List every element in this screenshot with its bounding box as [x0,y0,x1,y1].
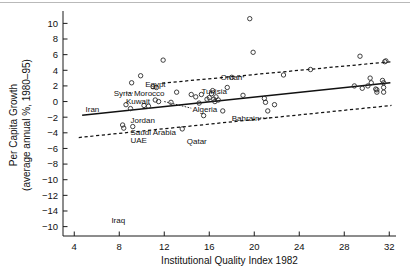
data-point [281,73,285,77]
country-label: Algeria [192,105,217,114]
x-tick-label: 12 [159,241,170,252]
data-point [381,85,385,89]
y-tick-label: −8 [47,158,58,169]
x-tick-label: 28 [339,241,350,252]
x-tick-label: 20 [249,241,260,252]
country-label: UAE [131,136,147,145]
data-point [169,100,173,104]
country-label: Oman [221,73,243,82]
country-label: Iraq [111,216,125,225]
x-tick-label: 16 [204,241,215,252]
country-label: Iran [86,105,100,114]
x-tick-label: 4 [72,241,77,252]
y-tick-label: −10 [42,174,58,185]
x-tick-label: 8 [117,241,122,252]
upper-confidence-band [162,62,392,83]
axes-group: 1086420−2−4−6−8−10−12−14−104812162024283… [42,11,396,252]
x-axis-title: Institutional Quality Index 1982 [161,255,298,266]
data-point [360,86,364,90]
data-point [272,102,276,106]
y-tick-label: −12 [42,190,58,201]
y-tick-label: 8 [53,33,58,44]
data-point [221,109,225,113]
data-point [251,50,255,54]
data-point [381,90,385,94]
institutional-quality-growth-scatter: 1086420−2−4−6−8−10−12−14−104812162024283… [0,0,410,277]
y-tick-label: 6 [53,49,58,60]
y-tick-label: 0 [53,96,58,107]
x-tick-label: 32 [384,241,395,252]
data-point [189,92,193,96]
y-axis-title-line1: Per Capita Growth [8,84,19,166]
y-tick-label: 2 [53,80,58,91]
data-point [138,74,142,78]
data-point [248,16,252,20]
data-point [194,95,198,99]
y-tick-label: −14 [42,205,58,216]
data-point [358,54,362,58]
top-rule-divider [0,2,410,3]
country-label: Jordan [131,116,155,125]
y-tick-label: 10 [47,18,58,29]
data-point [174,90,178,94]
country-label: Tunisia [201,87,227,96]
y-tick-label: −2 [47,112,58,123]
y-tick-label: 4 [53,65,58,76]
country-labels-group: IranSyriaMoroccoKuwaitEgyptJordanSaudi A… [86,73,260,226]
country-label: Qatar [187,137,207,146]
x-tick-label: 24 [294,241,305,252]
y-tick-label: −10 [42,221,58,232]
data-point [368,76,372,80]
y-tick-label: −4 [47,127,58,138]
data-point [241,93,245,97]
data-point [266,109,270,113]
y-tick-label: −6 [47,143,58,154]
data-point [161,58,165,62]
country-label: Kuwait [126,97,151,106]
country-label: Egypt [145,80,166,89]
data-point [129,81,133,85]
y-axis-title-line2: (average annual %, 1980–95) [21,59,32,191]
scatter-chart-figure: 1086420−2−4−6−8−10−12−14−104812162024283… [0,0,410,277]
data-point [180,127,184,131]
country-label: Bahrain [232,114,260,123]
